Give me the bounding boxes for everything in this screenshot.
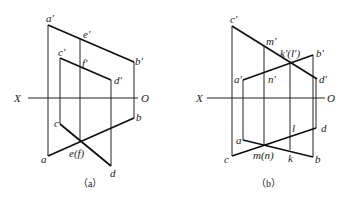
axis-o-label-b: O	[327, 92, 335, 104]
axis-x-label: X	[13, 92, 22, 104]
label-m-prime: m′	[266, 35, 277, 47]
label-c-b: c	[224, 153, 229, 165]
label-c-prime-b: c′	[230, 13, 238, 25]
label-b-prime: b′	[135, 55, 144, 67]
label-c-prime: c′	[58, 46, 66, 58]
label-b-b: b	[315, 153, 321, 165]
line-a-prime-b-prime-b	[243, 55, 313, 80]
axis-o-label: O	[141, 92, 149, 104]
line-cd-b	[232, 128, 316, 156]
label-d-prime: d′	[114, 74, 123, 86]
label-mn: m(n)	[253, 149, 274, 162]
label-e-prime: e′	[83, 28, 91, 40]
label-a: a	[41, 153, 47, 165]
label-d: d	[110, 167, 116, 179]
figure-b: X O c′ m′ k′(l′) b′ a′ n′ d′ l d a c m(n…	[195, 13, 335, 189]
label-l: l	[292, 122, 295, 134]
figure-a: X O a′ e′ b′ c′ f′ d′ c b a e(f) d （a）	[13, 12, 149, 189]
axis-x-label-b: X	[195, 92, 204, 104]
label-b: b	[136, 111, 142, 123]
label-a-prime-b: a′	[234, 73, 243, 85]
label-b-prime-b: b′	[316, 47, 325, 59]
caption-b: （b）	[256, 178, 281, 189]
line-cd	[60, 124, 111, 166]
label-f-prime: f′	[82, 57, 88, 69]
label-ef: e(f)	[69, 147, 85, 160]
projection-diagrams: X O a′ e′ b′ c′ f′ d′ c b a e(f) d （a） X…	[0, 0, 346, 198]
label-a-prime: a′	[46, 12, 55, 24]
label-d-b: d	[321, 122, 327, 134]
caption-a: （a）	[78, 178, 102, 189]
line-c-prime-d-prime-b	[232, 26, 317, 79]
label-kl-prime: k′(l′)	[280, 47, 300, 60]
label-k: k	[288, 152, 294, 164]
label-c: c	[54, 117, 59, 129]
label-d-prime-b: d′	[319, 73, 328, 85]
label-n-prime: n′	[268, 73, 277, 85]
label-a-b: a	[236, 134, 242, 146]
